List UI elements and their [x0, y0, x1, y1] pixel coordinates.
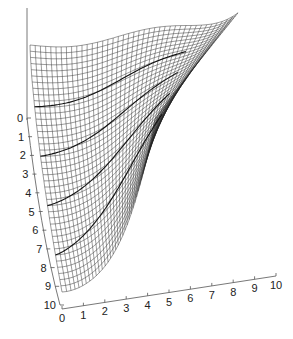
y-tick-label: 4	[25, 187, 31, 199]
y-tick-label: 9	[45, 280, 51, 292]
contour-line	[41, 72, 178, 156]
y-tick-label: 3	[22, 168, 28, 180]
y-tick-label: 5	[29, 206, 35, 218]
surface-plot: 012345678910 012345678910	[0, 0, 293, 339]
x-tick-label: 9	[252, 282, 258, 294]
x-tick-label: 1	[80, 309, 86, 321]
x-tick-label: 7	[209, 289, 215, 301]
y-tick-label: 10	[44, 299, 56, 311]
surface-mesh	[30, 13, 238, 292]
x-tick-label: 5	[166, 296, 172, 308]
y-tick-label: 2	[20, 149, 26, 161]
x-tick-label: 2	[102, 305, 108, 317]
x-tick-label: 8	[230, 286, 236, 298]
contour-lines	[35, 52, 186, 255]
y-tick-label: 8	[40, 262, 46, 274]
y-tick-label: 7	[36, 243, 42, 255]
x-axis-ticks: 012345678910	[59, 273, 282, 324]
y-tick-label: 1	[18, 131, 24, 143]
x-tick-label: 0	[59, 312, 65, 324]
y-axis-ticks: 012345678910	[17, 112, 64, 311]
x-tick-label: 3	[123, 302, 129, 314]
x-tick-label: 6	[187, 292, 193, 304]
y-tick-label: 6	[32, 224, 38, 236]
y-tick-label: 0	[17, 112, 23, 124]
x-tick-label: 10	[270, 279, 282, 291]
x-tick-label: 4	[145, 299, 151, 311]
mesh-lines	[30, 13, 238, 292]
